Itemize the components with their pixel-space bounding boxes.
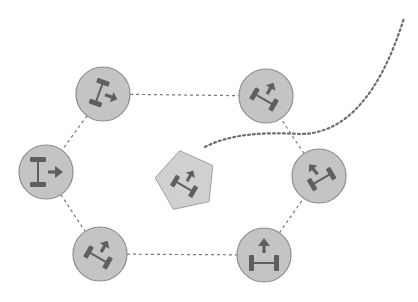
diagram-canvas xyxy=(0,0,418,302)
node-circle xyxy=(237,228,291,282)
trajectory-path xyxy=(205,18,404,147)
edge-right-top-right xyxy=(281,119,304,154)
edge-bottom-right-right xyxy=(279,198,303,233)
leader-pentagon xyxy=(155,151,213,210)
node-circle xyxy=(19,145,73,199)
robot-node-top-left xyxy=(76,67,130,121)
edge-top-left-left xyxy=(62,116,87,150)
pentagon-shape xyxy=(155,151,213,210)
formation-diagram xyxy=(0,0,418,302)
node-circle xyxy=(76,67,130,121)
robot-node-bottom-right xyxy=(237,228,291,282)
robot-node-bottom-left xyxy=(73,227,127,281)
edge-top-left-top-right xyxy=(130,94,239,95)
edge-bottom-left-bottom-right xyxy=(127,254,237,255)
node-circle xyxy=(73,227,127,281)
node-circle xyxy=(239,69,293,123)
robot-node-right xyxy=(292,149,346,203)
edge-left-bottom-left xyxy=(61,195,85,232)
robot-node-left xyxy=(19,145,73,199)
node-circle xyxy=(292,149,346,203)
robot-node-top-right xyxy=(239,69,293,123)
